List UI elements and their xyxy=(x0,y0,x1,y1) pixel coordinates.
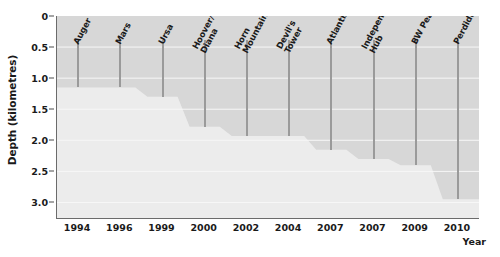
x-axis-tick-labels: 1994199619992000200220042007200720092010 xyxy=(56,222,478,240)
y-tick-label: 3.0 xyxy=(31,197,48,208)
x-tick-label: 1999 xyxy=(148,222,174,233)
x-tick-label: 1996 xyxy=(106,222,132,233)
plot-area: AugerMarsUrsaHoover/ DianaHorn MountainD… xyxy=(56,16,479,219)
rig-marker-line xyxy=(119,40,121,88)
rig-marker-line xyxy=(457,40,459,200)
depth-chart-figure: Depth (kilometres) 00.51.01.52.02.53.0 A… xyxy=(0,0,500,257)
rig-marker-line xyxy=(373,40,375,159)
y-tick-mark xyxy=(49,78,54,79)
rig-marker-line xyxy=(162,40,164,97)
y-tick-label: 1.0 xyxy=(31,73,48,84)
rig-marker-line xyxy=(415,40,417,166)
y-axis-tick-labels: 00.51.01.52.02.53.0 xyxy=(22,0,54,257)
plot-inner: AugerMarsUrsaHoover/ DianaHorn MountainD… xyxy=(57,16,479,218)
x-tick-label: 2000 xyxy=(190,222,216,233)
y-tick-label: 0 xyxy=(41,11,48,22)
x-tick-label: 2009 xyxy=(401,222,427,233)
y-tick-label: 2.0 xyxy=(31,135,48,146)
y-tick-mark xyxy=(49,109,54,110)
rig-marker-line xyxy=(330,40,332,150)
y-tick-mark xyxy=(49,47,54,48)
y-tick-label: 1.5 xyxy=(31,104,48,115)
x-tick-label: 2002 xyxy=(233,222,259,233)
x-tick-label: 1994 xyxy=(64,222,90,233)
y-tick-mark xyxy=(49,140,54,141)
y-tick-label: 0.5 xyxy=(31,42,48,53)
y-axis-title-text: Depth (kilometres) xyxy=(6,55,18,165)
y-tick-mark xyxy=(49,16,54,17)
rig-marker-line xyxy=(77,40,79,88)
x-tick-label: 2010 xyxy=(444,222,470,233)
y-tick-mark xyxy=(49,202,54,203)
x-tick-label: 2004 xyxy=(275,222,301,233)
x-tick-label: 2007 xyxy=(359,222,385,233)
x-axis-title: Year xyxy=(462,236,486,247)
y-axis-title: Depth (kilometres) xyxy=(0,0,24,220)
y-tick-label: 2.5 xyxy=(31,166,48,177)
y-tick-mark xyxy=(49,171,54,172)
x-tick-label: 2007 xyxy=(317,222,343,233)
